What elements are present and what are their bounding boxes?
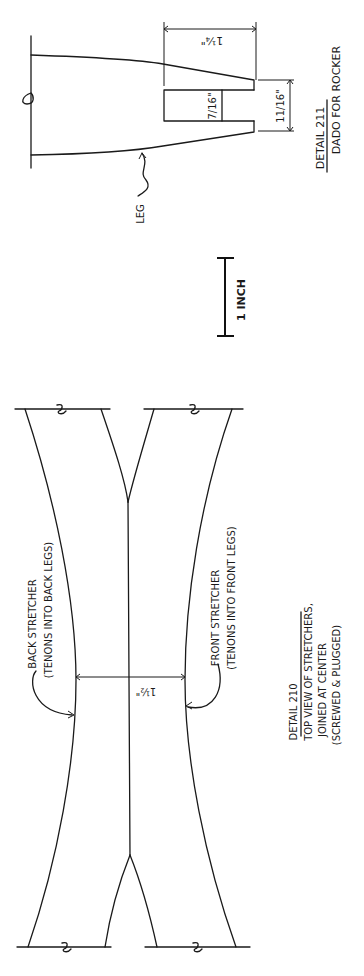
dimension-overall-depth: 1¼" xyxy=(201,34,224,47)
detail-210-line-2: JOINED AT CENTER xyxy=(317,643,328,738)
detail-211-title: DETAIL 211 xyxy=(314,107,327,170)
drawing-sheet: 1¼" 7/16" 11/16" LEG DETAIL 211 DADO FOR… xyxy=(0,0,364,976)
detail-211-title-block: DETAIL 211 DADO FOR ROCKER xyxy=(314,45,343,172)
back-stretcher-label: BACK STRETCHER xyxy=(27,579,38,668)
front-stretcher-outer-edge xyxy=(185,409,236,947)
front-stretcher-label: FRONT STRETCHER xyxy=(210,570,221,666)
scale-bar: 1 INCH xyxy=(217,258,248,336)
detail-210-title-block: DETAIL 210 TOP VIEW OF STRETCHERS, JOINE… xyxy=(288,603,342,745)
detail-211-subtitle: DADO FOR ROCKER xyxy=(330,45,343,154)
dimension-stretcher-width: 1½" xyxy=(136,686,157,697)
detail-210-line-3: (SCREWED & PLUGGED) xyxy=(331,625,342,745)
center-joint-line xyxy=(128,502,130,855)
dimension-dado-width: 11/16" xyxy=(275,89,286,122)
scale-bar-label: 1 INCH xyxy=(235,279,248,321)
detail-210-line-1: TOP VIEW OF STRETCHERS, xyxy=(303,603,314,742)
detail-211-leg-drawing xyxy=(23,22,294,196)
front-stretcher-leader-arrow-icon xyxy=(188,664,220,708)
leg-label: LEG xyxy=(135,204,146,224)
leg-leader-arrow-icon xyxy=(138,153,148,196)
detail-210-title: DETAIL 210 xyxy=(288,684,299,741)
dimension-dado-depth: 7/16" xyxy=(207,92,218,119)
back-stretcher-note: (TENONS INTO BACK LEGS) xyxy=(43,542,54,679)
front-stretcher-note: (TENONS INTO FRONT LEGS) xyxy=(226,526,237,670)
